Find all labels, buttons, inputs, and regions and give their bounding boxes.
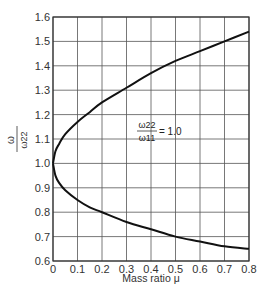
y-tick-label: 1.4 bbox=[35, 60, 50, 72]
y-tick-label: 0.6 bbox=[35, 255, 50, 267]
y-tick-label: 0.8 bbox=[35, 206, 50, 218]
y-tick-label: 1.3 bbox=[35, 84, 50, 96]
annotation-numerator: ω22 bbox=[138, 120, 155, 130]
y-axis-title-numerator: ω bbox=[5, 136, 16, 144]
x-tick-label: 0.1 bbox=[70, 263, 85, 275]
x-tick-label: 0.6 bbox=[192, 263, 207, 275]
y-tick-label: 0.9 bbox=[35, 182, 50, 194]
x-tick-label: 0 bbox=[50, 263, 56, 275]
y-tick-label: 1.2 bbox=[35, 109, 50, 121]
tick-labels: 00.10.20.30.40.50.60.70.80.60.70.80.91.0… bbox=[35, 11, 257, 275]
x-tick-label: 0.8 bbox=[241, 263, 256, 275]
annotation-denominator: ω11 bbox=[139, 133, 155, 143]
y-tick-label: 1.1 bbox=[35, 133, 50, 145]
y-tick-label: 1.6 bbox=[35, 11, 50, 23]
annotation-value: = 1.0 bbox=[159, 126, 182, 137]
y-axis-title: ω ω22 bbox=[5, 126, 29, 152]
chart: 00.10.20.30.40.50.60.70.80.60.70.80.91.0… bbox=[0, 0, 266, 302]
y-tick-label: 0.7 bbox=[35, 231, 50, 243]
x-axis-title: Mass ratio μ bbox=[122, 272, 179, 284]
y-tick-label: 1.5 bbox=[35, 35, 50, 47]
y-tick-label: 1.0 bbox=[35, 157, 50, 169]
y-axis-title-denominator: ω22 bbox=[19, 131, 29, 148]
x-tick-label: 0.7 bbox=[217, 263, 232, 275]
x-tick-label: 0.2 bbox=[94, 263, 109, 275]
